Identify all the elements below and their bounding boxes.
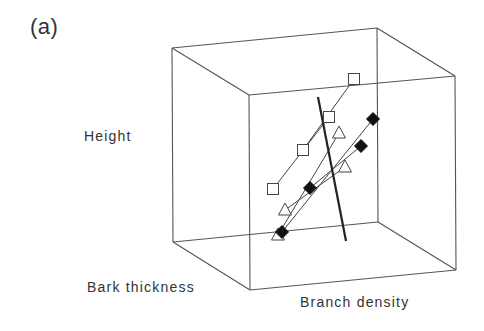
cube-edge: [172, 48, 249, 95]
cube-edge: [455, 76, 456, 270]
triangle-marker-icon: [279, 203, 292, 215]
square-marker-icon: [324, 112, 335, 123]
square-marker-icon: [298, 145, 309, 156]
square-marker-icon: [268, 184, 279, 195]
diamond-marker-icon: [355, 140, 368, 153]
square-marker-icon: [349, 74, 360, 85]
filled-diamond-link: [282, 119, 373, 232]
3d-scatter-plot: [0, 0, 484, 331]
cube-edge: [172, 48, 173, 242]
cube-edge: [377, 28, 378, 222]
triangle-marker-icon: [339, 160, 352, 172]
cube-edge: [173, 242, 250, 290]
cube-edge: [249, 95, 250, 290]
cube-edge: [250, 270, 456, 290]
cube-edge: [378, 222, 456, 270]
triangle-marker-icon: [333, 126, 346, 138]
diamond-marker-icon: [304, 182, 317, 195]
cube-edge: [172, 28, 377, 48]
cube-frame: [172, 28, 456, 290]
cube-edge: [377, 28, 455, 76]
data-markers: [268, 74, 380, 241]
